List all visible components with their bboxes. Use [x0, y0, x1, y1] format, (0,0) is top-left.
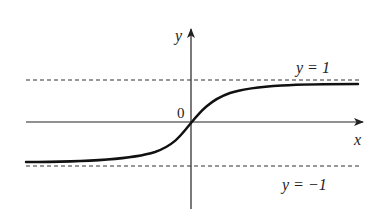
x-axis-label: x [353, 131, 361, 148]
asymptote-upper-label-text: y = 1 [294, 59, 330, 77]
asymptote-lower-label: y = −1 [280, 176, 327, 194]
origin-label: 0 [177, 105, 185, 121]
function-graph-figure: y x 0 y = 1 y = −1 [0, 0, 387, 216]
asymptote-lower-label-text: y = −1 [280, 176, 327, 194]
asymptote-upper-label: y = 1 [294, 59, 330, 77]
y-axis-label: y [173, 27, 183, 45]
function-curve [26, 84, 358, 162]
